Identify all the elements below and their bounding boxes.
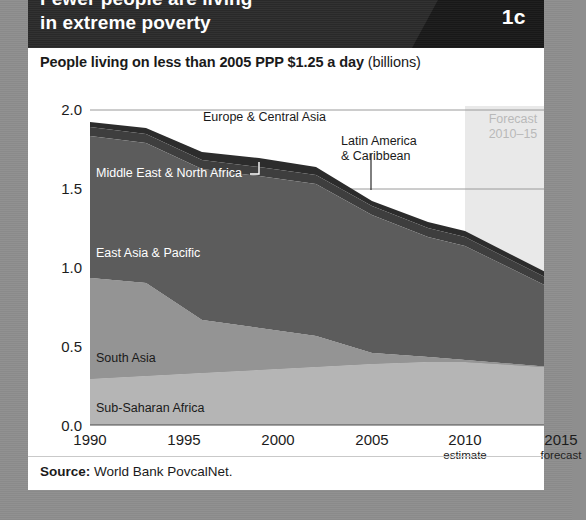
x-tick-1995: 1995 bbox=[148, 431, 220, 448]
series-label-middle-east-north-africa: Middle East & North Africa bbox=[96, 166, 242, 180]
forecast-annotation-line1: Forecast bbox=[489, 112, 538, 126]
y-tick-0-5: 0.5 bbox=[48, 338, 82, 355]
x-tick-2015: 2015 bbox=[525, 431, 586, 448]
figure-header: Fewer people are living in extreme pover… bbox=[28, 0, 544, 48]
y-tick-1-5: 1.5 bbox=[48, 180, 82, 197]
chart-subtitle-bold: People living on less than 2005 PPP $1.2… bbox=[40, 54, 364, 70]
forecast-annotation: Forecast 2010–15 bbox=[465, 112, 561, 142]
source-note: Source: World Bank PovcalNet. bbox=[40, 464, 233, 479]
chart-subtitle: People living on less than 2005 PPP $1.2… bbox=[40, 54, 532, 70]
series-label-latin-america-line1: Latin America bbox=[341, 134, 417, 148]
series-label-latin-america-caribbean: Latin America & Caribbean bbox=[341, 134, 417, 164]
figure-title-line2: in extreme poverty bbox=[40, 12, 211, 33]
chart-subtitle-unit: (billions) bbox=[368, 54, 421, 70]
series-label-south-asia: South Asia bbox=[96, 351, 156, 365]
figure-title: Fewer people are living in extreme pover… bbox=[40, 0, 420, 35]
figure-number-label: 1c bbox=[502, 5, 526, 29]
x-tick-2000: 2000 bbox=[242, 431, 314, 448]
figure-card: Fewer people are living in extreme pover… bbox=[28, 0, 544, 490]
forecast-annotation-line2: 2010–15 bbox=[489, 127, 538, 141]
series-label-east-asia-pacific: East Asia & Pacific bbox=[96, 246, 200, 260]
x-tick-2010: 2010 bbox=[429, 431, 501, 448]
x-tick-2010-sublabel: estimate bbox=[429, 449, 501, 461]
source-label: Source: bbox=[40, 464, 90, 479]
y-tick-2-0: 2.0 bbox=[48, 101, 82, 118]
x-tick-2015-sublabel: forecast bbox=[525, 449, 586, 461]
x-tick-1990: 1990 bbox=[54, 431, 126, 448]
figure-title-line1: Fewer people are living bbox=[40, 0, 252, 9]
series-label-latin-america-line2: & Caribbean bbox=[341, 149, 411, 163]
stacked-area-chart: 2.0 1.5 1.0 0.5 0.0 1990 1995 2000 2005 … bbox=[28, 86, 544, 456]
y-tick-1-0: 1.0 bbox=[48, 259, 82, 276]
source-divider bbox=[28, 456, 544, 457]
series-label-europe-central-asia: Europe & Central Asia bbox=[203, 110, 326, 124]
x-tick-2005: 2005 bbox=[336, 431, 408, 448]
source-text: World Bank PovcalNet. bbox=[94, 464, 233, 479]
series-label-sub-saharan-africa: Sub-Saharan Africa bbox=[96, 401, 204, 415]
